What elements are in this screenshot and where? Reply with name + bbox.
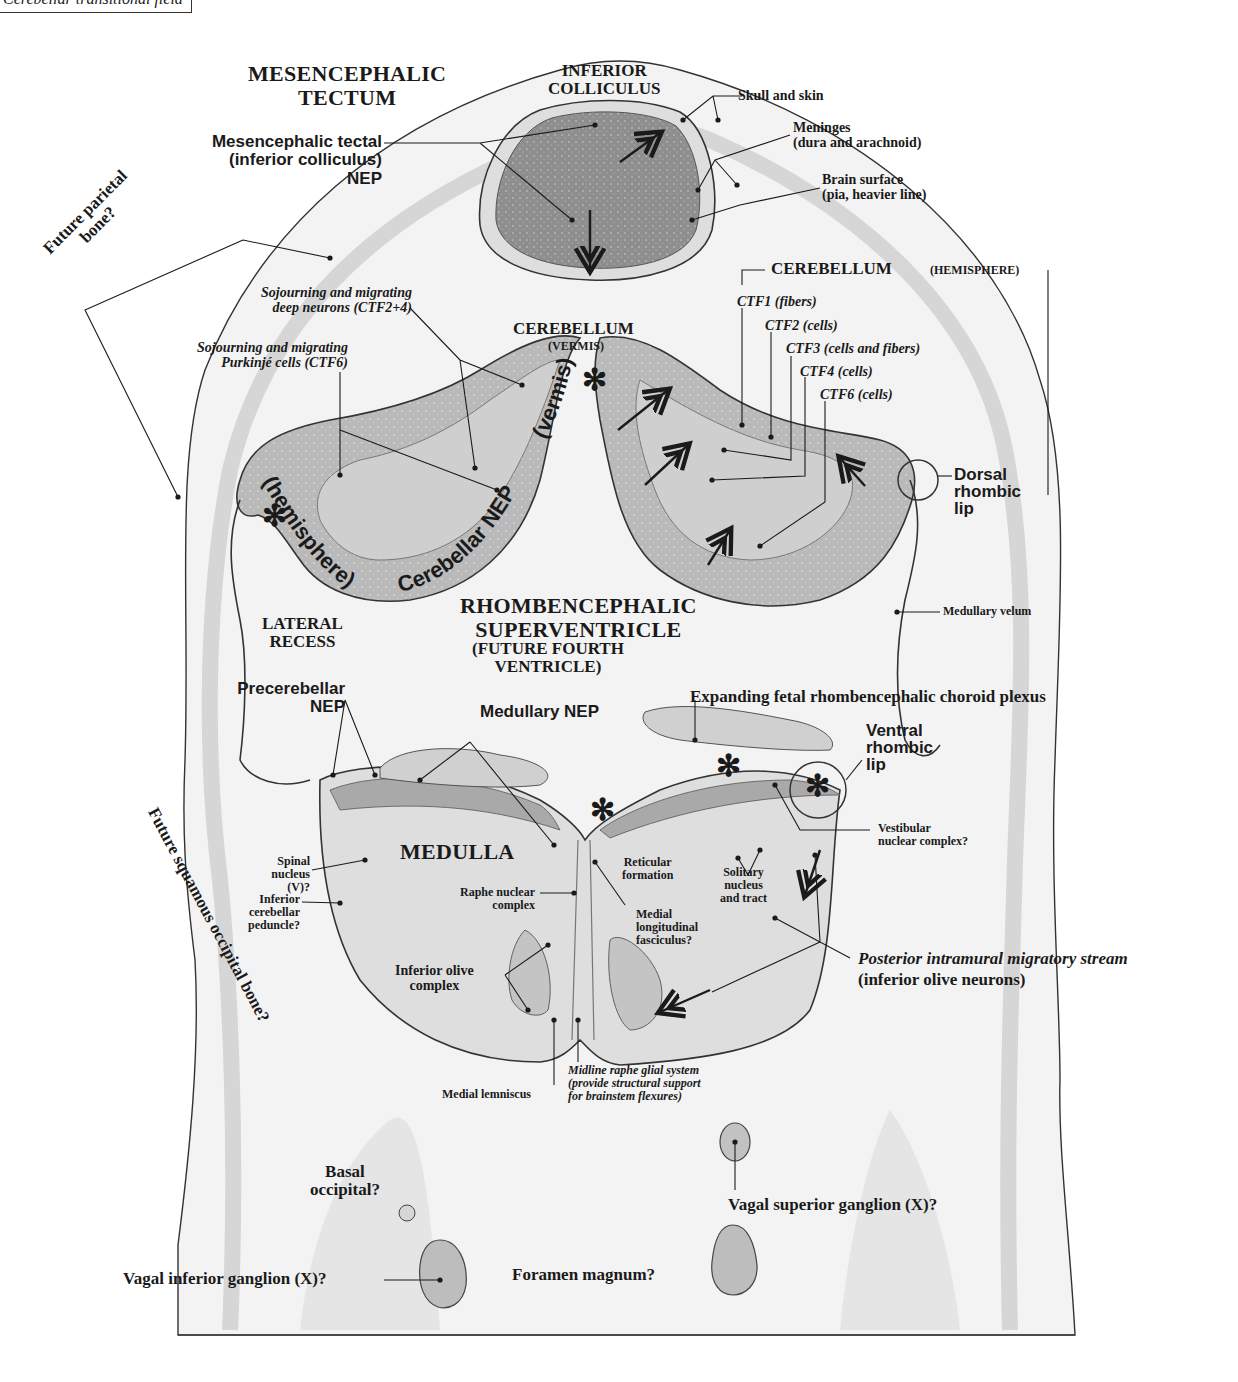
region-cerebellum-hemisphere: CEREBELLUM (771, 260, 892, 278)
label-vagal-inferior-ganglion: Vagal inferior ganglion (X)? (123, 1270, 327, 1288)
region-rhombencephalic-superventricle: RHOMBENCEPHALIC SUPERVENTRICLE (460, 594, 697, 642)
asterisk-icon-vermis: ✻ (582, 364, 607, 396)
asterisk-icon-choroid: ✻ (716, 750, 741, 782)
label-ctf2: CTF2 (cells) (765, 318, 838, 333)
label-sojourning-deep-neurons: Sojourning and migrating deep neurons (C… (200, 285, 412, 315)
label-basal-occipital: Basal occipital? (310, 1163, 380, 1200)
figure-stage: Cerebellar transitional field (0, 0, 1238, 1382)
label-dorsal-rhombic-lip: Dorsal rhombic lip (954, 466, 1021, 517)
label-vagal-superior-ganglion: Vagal superior ganglion (X)? (728, 1196, 937, 1214)
label-precerebellar-nep: Precerebellar NEP (200, 680, 345, 717)
label-midline-raphe: Midline raphe glial system (provide stru… (568, 1064, 701, 1103)
label-inferior-olive-complex: Inferior olive complex (395, 963, 474, 993)
label-spinal-nucleus: Spinal nucleus (V)? (240, 855, 310, 894)
label-ctf1: CTF1 (fibers) (737, 294, 817, 309)
label-raphe-nuclear-complex: Raphe nuclear complex (420, 886, 535, 912)
label-medullary-nep: Medullary NEP (480, 703, 599, 721)
asterisk-icon-ventral-lip: ✻ (805, 770, 830, 802)
anatomy-figure: (hemisphere) Cerebellar NEP (vermis) (0, 0, 1238, 1382)
label-reticular-formation: Reticular formation (622, 856, 673, 882)
label-ctf6: CTF6 (cells) (820, 387, 893, 402)
label-skull-and-skin: Skull and skin (738, 88, 824, 103)
label-brain-surface: Brain surface (pia, heavier line) (822, 172, 926, 202)
label-inferior-cerebellar-peduncle: Inferior cerebellar peduncle? (220, 893, 300, 932)
label-medullary-velum: Medullary velum (943, 605, 1031, 618)
region-cerebellum-hemisphere-sub: (HEMISPHERE) (930, 264, 1019, 277)
region-medulla: MEDULLA (400, 840, 515, 864)
basal-occipital-shape (399, 1205, 415, 1221)
region-future-fourth-ventricle: (FUTURE FOURTH VENTRICLE) (472, 640, 624, 677)
asterisk-icon-midline: ✻ (590, 794, 615, 826)
label-choroid-plexus: Expanding fetal rhombencephalic choroid … (690, 688, 1046, 706)
label-medial-longitudinal-fasciculus: Medial longitudinal fasciculus? (636, 908, 698, 947)
label-sojourning-purkinje: Sojourning and migrating Purkinjé cells … (140, 340, 348, 370)
label-solitary-nucleus: Solitary nucleus and tract (720, 866, 767, 905)
label-posterior-stream-sub: (inferior olive neurons) (858, 971, 1025, 989)
region-inferior-colliculus: INFERIOR COLLICULUS (548, 62, 660, 99)
region-mesencephalic-tectum: MESENCEPHALIC TECTUM (248, 62, 446, 110)
label-meninges: Meninges (dura and arachnoid) (793, 120, 921, 150)
label-ctf4: CTF4 (cells) (800, 364, 873, 379)
label-ctf3: CTF3 (cells and fibers) (786, 341, 920, 356)
asterisk-icon-hemisphere: ✻ (262, 500, 287, 532)
label-foramen-magnum: Foramen magnum? (512, 1266, 655, 1284)
region-cerebellum-vermis: CEREBELLUM (513, 320, 634, 338)
label-ventral-rhombic-lip: Ventral rhombic lip (866, 722, 933, 773)
label-mesencephalic-tectal-nep: Mesencephalic tectal (inferior colliculu… (160, 133, 382, 188)
label-medial-lemniscus: Medial lemniscus (442, 1088, 531, 1101)
region-lateral-recess: LATERAL RECESS (262, 615, 343, 652)
label-vestibular-nuclear-complex: Vestibular nuclear complex? (878, 822, 968, 848)
label-posterior-stream: Posterior intramural migratory stream (858, 950, 1128, 968)
region-cerebellum-vermis-sub: (VERMIS) (548, 340, 604, 353)
